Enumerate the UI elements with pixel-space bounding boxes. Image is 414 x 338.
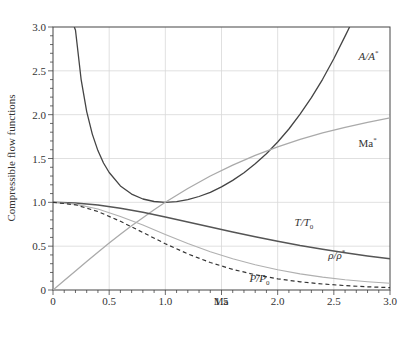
y-tick-label: 2.5 [32,65,46,77]
compressible-flow-chart: 00.51.01.52.02.53.0 00.51.01.52.02.53.0 … [0,0,414,338]
y-tick-label: 0 [41,284,47,296]
x-tick-label: 0 [50,295,56,307]
label-rho-rho-: ρ/ρ* [327,248,346,261]
label-a-a-: A/A* [358,49,380,62]
x-tick-label: 0.5 [102,295,116,307]
y-tick-label: 2.0 [32,109,46,121]
curve-labels: A/A*Ma*T/T0ρ/ρ*P/P0 [249,49,379,287]
x-tick-label: 2.5 [327,295,341,307]
y-tick-label: 1.5 [32,153,46,165]
y-axis-label: Compressible flow functions [5,94,17,221]
y-tick-label: 0.5 [32,240,46,252]
y-tick-label: 3.0 [32,21,46,33]
x-tick-label: 2.0 [271,295,285,307]
x-axis-label: Ma [214,295,229,307]
y-axis-ticks: 00.51.01.52.02.53.0 [32,21,53,296]
x-tick-label: 3.0 [383,295,397,307]
y-tick-label: 1.0 [32,196,46,208]
label-ma-: Ma* [359,136,378,149]
label-t-t0: T/T0 [295,216,314,231]
x-tick-label: 1.0 [158,295,172,307]
label-p-p0: P/P0 [249,272,270,287]
